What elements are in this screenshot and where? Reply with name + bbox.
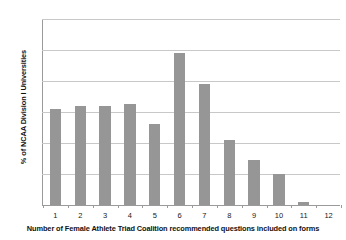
bar — [174, 53, 185, 205]
x-tick-label: 6 — [167, 211, 192, 220]
x-tick-mark — [68, 205, 69, 208]
x-tick-label: 5 — [142, 211, 167, 220]
x-tick-mark — [43, 205, 44, 208]
bar-chart-figure: % of NCAA Division I Universities 010203… — [0, 0, 346, 240]
x-tick-mark — [142, 205, 143, 208]
x-tick-mark — [192, 205, 193, 208]
y-axis-title: % of NCAA Division I Universities — [17, 9, 31, 205]
x-tick-mark — [341, 205, 342, 208]
x-tick-mark — [167, 205, 168, 208]
x-tick-mark — [267, 205, 268, 208]
x-axis-title: Number of Female Athlete Triad Coalition… — [0, 224, 346, 233]
x-tick-mark — [291, 205, 292, 208]
x-tick-label: 1 — [43, 211, 68, 220]
bar — [124, 104, 135, 205]
bars-group — [43, 19, 340, 205]
x-tick-label: 8 — [217, 211, 242, 220]
x-tick-mark — [242, 205, 243, 208]
x-tick-label: 10 — [267, 211, 292, 220]
x-tick-mark — [316, 205, 317, 208]
x-tick-label: 9 — [242, 211, 267, 220]
bar — [99, 106, 110, 205]
x-tick-label: 2 — [68, 211, 93, 220]
bar — [149, 124, 160, 205]
bar — [224, 140, 235, 205]
bar — [199, 84, 210, 205]
x-tick-mark — [118, 205, 119, 208]
x-tick-mark — [217, 205, 218, 208]
bar — [248, 160, 259, 205]
x-tick-label: 3 — [93, 211, 118, 220]
x-tick-label: 4 — [118, 211, 143, 220]
x-tick-label: 12 — [316, 211, 341, 220]
bar — [273, 174, 284, 205]
x-axis-ticks: 123456789101112 — [43, 205, 340, 225]
bar — [50, 109, 61, 205]
x-tick-label: 7 — [192, 211, 217, 220]
bar — [75, 106, 86, 205]
x-tick-mark — [93, 205, 94, 208]
x-tick-label: 11 — [291, 211, 316, 220]
